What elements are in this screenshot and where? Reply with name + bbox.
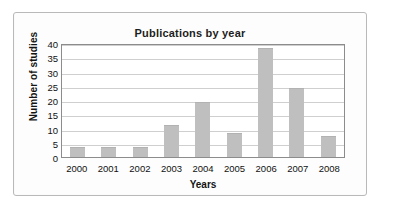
x-tick-label: 2004: [187, 163, 219, 174]
y-axis-tick-labels: 0510152025303540: [34, 44, 58, 158]
y-tick-label: 35: [34, 53, 58, 64]
bar-2003: [164, 125, 179, 157]
x-tick-label: 2003: [156, 163, 188, 174]
bar-2005: [227, 133, 242, 157]
bar-slot: [93, 45, 124, 157]
bar-slot: [281, 45, 312, 157]
bar-slot: [250, 45, 281, 157]
bar-slot: [156, 45, 187, 157]
bar-slot: [187, 45, 218, 157]
bar-slot: [313, 45, 344, 157]
x-tick-label: 2002: [124, 163, 156, 174]
figure-frame: Publications by year Number of studies 0…: [13, 12, 367, 196]
x-tick-label: 2005: [219, 163, 251, 174]
x-tick-label: 2007: [282, 163, 314, 174]
x-axis-title: Years: [61, 179, 345, 190]
y-tick-label: 0: [34, 153, 58, 164]
bar-2006: [258, 48, 273, 157]
bar-2001: [101, 147, 116, 157]
x-tick-label: 2001: [93, 163, 125, 174]
x-tick-label: 2000: [61, 163, 93, 174]
y-tick-label: 5: [34, 138, 58, 149]
x-tick-label: 2008: [314, 163, 346, 174]
y-tick-label: 10: [34, 124, 58, 135]
bar-slot: [62, 45, 93, 157]
x-axis-tick-labels: 200020012002200320042005200620072008: [61, 163, 345, 174]
bar-slot: [125, 45, 156, 157]
plot-area: [61, 44, 345, 158]
bar-slot: [219, 45, 250, 157]
bar-2008: [321, 136, 336, 157]
chart-title: Publications by year: [14, 27, 366, 39]
bar-2007: [289, 88, 304, 157]
y-tick-label: 20: [34, 96, 58, 107]
bar-2000: [70, 147, 85, 157]
y-tick-label: 30: [34, 67, 58, 78]
bar-2004: [195, 102, 210, 157]
bar-2002: [133, 147, 148, 157]
y-tick-label: 40: [34, 39, 58, 50]
bar-series: [62, 45, 344, 157]
y-tick-label: 15: [34, 110, 58, 121]
y-tick-label: 25: [34, 81, 58, 92]
x-tick-label: 2006: [250, 163, 282, 174]
